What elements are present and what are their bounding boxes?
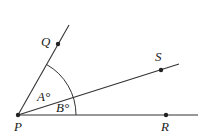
angle-label-a: A° (36, 89, 50, 104)
angle-diagram: P Q S R A° B° (0, 0, 209, 136)
label-q: Q (41, 34, 51, 49)
label-r: R (160, 119, 169, 134)
point-p (16, 113, 20, 117)
label-p: P (13, 119, 22, 134)
label-s: S (155, 49, 162, 64)
point-s (159, 68, 163, 72)
point-r (164, 113, 168, 117)
point-q (56, 42, 60, 46)
angle-label-b: B° (56, 100, 69, 115)
